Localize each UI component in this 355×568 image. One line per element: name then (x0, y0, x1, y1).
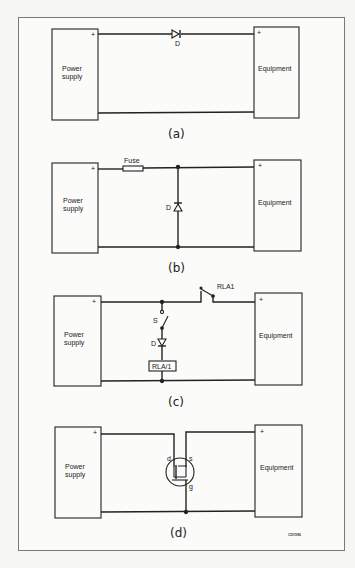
plus-sign: + (93, 429, 97, 436)
positive-wire (143, 167, 254, 168)
diode-icon (158, 339, 166, 346)
junction-dot (184, 510, 187, 513)
power-supply-label: Power (65, 463, 86, 470)
switch-icon (160, 310, 168, 329)
relay-coil-label: RLA/1 (152, 363, 172, 370)
diode-label: D (166, 204, 171, 211)
equipment-label: Equipment (259, 332, 293, 340)
panel-caption: (d) (170, 526, 187, 540)
panel-caption: (b) (168, 261, 185, 275)
relay-contact-icon (200, 287, 214, 297)
diode-label: D (175, 40, 180, 47)
negative-wire (98, 112, 254, 113)
panel-a: + + Power supply Equipment D (a) (52, 27, 299, 141)
panel-caption: (c) (168, 395, 184, 409)
diode-icon (172, 30, 180, 38)
gate-label: g (189, 483, 193, 491)
drain-label: d (167, 455, 171, 462)
fuse-icon (123, 166, 143, 171)
plus-sign: + (257, 29, 261, 36)
equipment-box (255, 293, 302, 385)
power-supply-label: supply (62, 73, 83, 81)
negative-wire (101, 380, 255, 381)
junction-dot (176, 245, 179, 248)
plus-sign: + (92, 298, 96, 305)
plus-sign: + (260, 428, 264, 435)
switch-label: S (153, 317, 158, 324)
junction-dot (160, 379, 163, 382)
plus-sign: + (91, 165, 95, 172)
positive-wire (213, 296, 255, 302)
panel-d: + + Power supply Equipment d s g (d) CD1… (55, 425, 302, 540)
equipment-label: Equipment (258, 65, 292, 73)
figure-code: CD1596 (288, 533, 301, 537)
equipment-label: Equipment (258, 199, 292, 207)
positive-wire (101, 291, 201, 302)
panel-b: + + Power supply Equipment Fuse D (b) (52, 157, 301, 275)
equipment-box (254, 27, 299, 118)
source-label: s (189, 455, 193, 462)
fuse-label: Fuse (124, 157, 140, 164)
power-supply-label: Power (62, 65, 83, 72)
plus-sign: + (258, 162, 262, 169)
power-supply-label: supply (64, 339, 85, 347)
power-supply-label: Power (64, 331, 85, 338)
equipment-label: Equipment (260, 464, 294, 472)
panel-caption: (a) (168, 127, 185, 141)
positive-wire (186, 432, 255, 467)
power-supply-label: supply (63, 205, 84, 213)
power-supply-label: supply (65, 471, 86, 479)
power-supply-label: Power (63, 197, 84, 204)
equipment-box (255, 425, 302, 517)
plus-sign: + (91, 31, 95, 38)
diode-icon (174, 203, 182, 211)
panel-c: + + Power supply Equipment RLA1 S D RLA/… (54, 283, 302, 409)
positive-wire (101, 434, 174, 467)
diode-label: D (151, 340, 156, 347)
reverse-polarity-protection-diagram: + + Power supply Equipment D (a) + + Pow… (0, 0, 355, 568)
relay-contact-label: RLA1 (217, 283, 235, 290)
plus-sign: + (259, 296, 263, 303)
negative-wire (101, 511, 255, 512)
